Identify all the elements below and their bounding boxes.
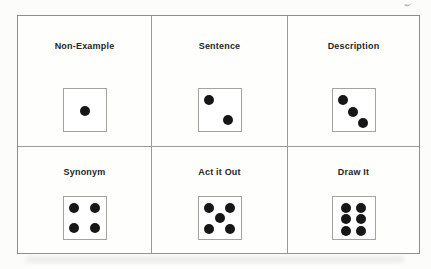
die-pip	[358, 118, 368, 128]
die-pip	[338, 95, 348, 105]
die-pip	[341, 203, 351, 213]
cell-label: Description	[328, 41, 380, 52]
cell-label: Synonym	[64, 167, 106, 178]
die-pip	[348, 107, 358, 117]
die-pip	[90, 203, 100, 213]
cell-draw-it: Draw It	[288, 147, 419, 253]
die-pip	[356, 203, 366, 213]
die-face-1	[63, 88, 107, 132]
die-pip	[225, 224, 235, 234]
die-face-5	[198, 196, 242, 240]
die-pip	[204, 203, 214, 213]
die-face-2	[198, 88, 242, 132]
die-face-6	[332, 196, 376, 240]
die-pip	[215, 213, 225, 223]
die-pip	[341, 214, 351, 224]
cell-act-it-out: Act it Out	[152, 147, 288, 253]
die-pip	[80, 106, 90, 116]
die-pip	[356, 214, 366, 224]
scan-shadow	[26, 257, 404, 262]
die-face-3	[332, 88, 376, 132]
cell-label: Draw It	[338, 167, 369, 178]
die-pip	[204, 95, 214, 105]
die-face-4	[63, 196, 107, 240]
cell-non-example: Non-Example	[18, 16, 152, 147]
cell-label: Non-Example	[55, 41, 115, 52]
page-edge-partial-glyph	[404, 0, 413, 8]
cell-synonym: Synonym	[18, 147, 152, 253]
cell-sentence: Sentence	[152, 16, 288, 147]
die-pip	[69, 223, 79, 233]
cell-label: Act it Out	[198, 167, 241, 178]
cell-label: Sentence	[199, 41, 241, 52]
die-pip	[90, 223, 100, 233]
die-pip	[356, 226, 366, 236]
vocabulary-dice-table: Non-Example Sentence Description Synonym…	[17, 15, 420, 254]
worksheet-page: Non-Example Sentence Description Synonym…	[0, 0, 431, 269]
die-pip	[341, 226, 351, 236]
cell-description: Description	[288, 16, 419, 147]
die-pip	[204, 224, 214, 234]
die-pip	[223, 115, 233, 125]
die-pip	[225, 203, 235, 213]
die-pip	[69, 203, 79, 213]
